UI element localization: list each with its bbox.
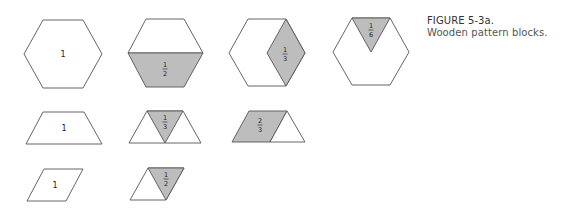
fraction-numerator: 1 [163,61,167,69]
fraction-numerator: 1 [369,22,373,30]
hexagon-whole-label: 1 [60,50,65,59]
figure-caption-text: Wooden pattern blocks. [427,27,548,39]
rhombus-half: 1 2 [130,168,184,200]
fraction-numerator: 1 [163,114,167,122]
fraction-denominator: 6 [369,31,373,39]
hexagon-third: 1 3 [229,19,305,86]
fraction-numerator: 1 [283,46,287,54]
trapezoid-third: 1 3 [129,111,201,143]
rhombus-whole: 1 [27,169,83,201]
trapezoid-two-thirds: 2 3 [232,111,305,142]
rhombus-whole-label: 1 [52,181,57,190]
fraction-numerator: 2 [258,117,262,125]
fraction-denominator: 2 [163,70,167,78]
trapezoid-whole-label: 1 [61,124,66,133]
trapezoid-whole: 1 [26,112,102,144]
figure-caption-title: FIGURE 5-3a. [427,15,548,27]
hexagon-half: 1 2 [128,19,203,87]
figure-caption: FIGURE 5-3a. Wooden pattern blocks. [427,15,548,39]
fraction-denominator: 3 [163,123,167,131]
fraction-denominator: 3 [283,55,287,63]
hexagon-whole: 1 [24,20,102,88]
fraction-denominator: 3 [258,126,262,134]
hexagon-sixth: 1 6 [333,18,409,85]
fraction-numerator: 1 [164,171,168,179]
fraction-denominator: 2 [164,180,168,188]
